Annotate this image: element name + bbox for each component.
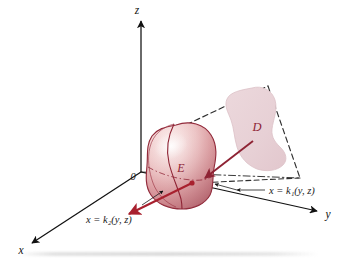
front-boundary-label: x = k₁(y, z)	[268, 185, 315, 197]
y-axis-label: y	[324, 208, 331, 221]
page-edge-smudge	[18, 252, 318, 256]
traversal-point-dot	[189, 180, 194, 185]
z-axis-label: z	[134, 4, 140, 16]
back-boundary-label: x = k₂(y, z)	[85, 214, 132, 226]
projection-region-label: D	[251, 120, 261, 134]
origin-label: 0	[130, 171, 136, 182]
solid-region-label: E	[176, 161, 185, 175]
figure-container: D z y x 0 E	[0, 0, 344, 262]
x-axis	[32, 172, 141, 243]
solid-region-diagram: D z y x 0 E	[0, 0, 344, 262]
